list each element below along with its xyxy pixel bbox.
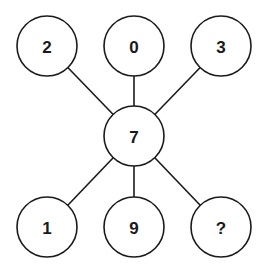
node-label: 7: [129, 128, 138, 147]
puzzle-diagram: 2 0 3 7 1 9 ?: [0, 0, 261, 279]
node-label: 3: [216, 38, 225, 57]
node-bottom-left: 1: [17, 197, 77, 257]
node-center: 7: [104, 106, 164, 166]
node-label: 9: [129, 219, 138, 238]
unknown-value-label: ?: [216, 219, 226, 238]
node-label: 0: [129, 38, 138, 57]
node-top-middle: 0: [104, 16, 164, 76]
node-top-left: 2: [17, 16, 77, 76]
node-top-right: 3: [191, 16, 251, 76]
node-label: 2: [42, 38, 51, 57]
node-bottom-middle: 9: [104, 197, 164, 257]
node-bottom-right: ?: [191, 197, 251, 257]
node-label: 1: [42, 219, 51, 238]
